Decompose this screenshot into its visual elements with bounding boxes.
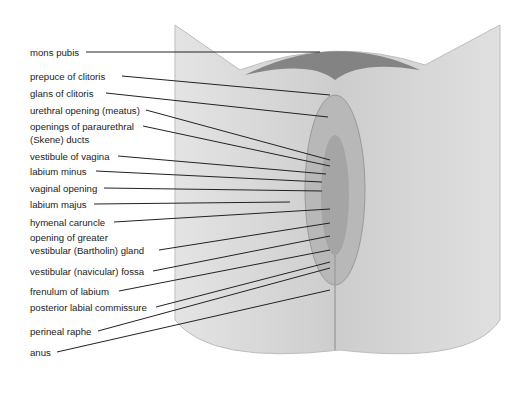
label-vestibule-of-vagina: vestibule of vagina	[30, 151, 109, 162]
label-glans-of-clitoris: glans of clitoris	[30, 88, 93, 99]
label-prepuce-of-clitoris: prepuce of clitoris	[30, 71, 105, 82]
label-urethral-opening: urethral opening (meatus)	[30, 105, 140, 116]
label-vaginal-opening: vaginal opening	[30, 183, 97, 194]
label-paraurethral-ducts-line1: openings of paraurethral	[30, 121, 134, 132]
label-hymenal-caruncle: hymenal caruncle	[30, 217, 105, 228]
label-posterior-labial-commissure: posterior labial commissure	[30, 302, 147, 313]
label-anus: anus	[30, 347, 51, 358]
label-perineal-raphe: perineal raphe	[30, 326, 91, 337]
label-bartholin-gland-line1: opening of greater	[30, 232, 108, 243]
label-frenulum-of-labium: frenulum of labium	[30, 286, 109, 297]
label-paraurethral-ducts-line2: (Skene) ducts	[30, 134, 89, 145]
label-navicular-fossa: vestibular (navicular) fossa	[30, 266, 144, 277]
label-labium-majus: labium majus	[30, 199, 87, 210]
label-layer: mons pubis prepuce of clitoris glans of …	[0, 0, 518, 397]
label-mons-pubis: mons pubis	[30, 47, 79, 58]
label-bartholin-gland-line2: vestibular (Bartholin) gland	[30, 245, 144, 256]
label-labium-minus: labium minus	[30, 166, 87, 177]
